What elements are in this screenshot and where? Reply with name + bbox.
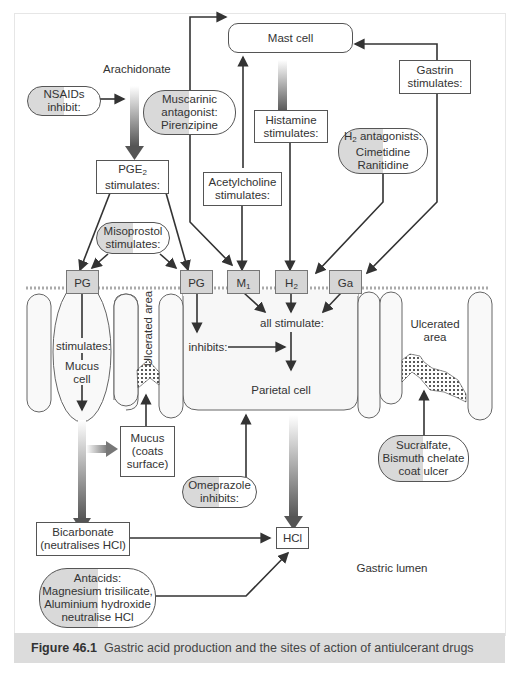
- ulcerated-area-vertical-label: Ulcerated area: [142, 289, 155, 369]
- epithelial-cell: [380, 292, 402, 404]
- h2-antagonists-node: H2 antagonists: Cimetidine Ranitidine: [338, 128, 428, 174]
- mucus-cell-label: Mucus cell: [62, 360, 102, 386]
- receptor-pg-mucus: PG: [66, 270, 99, 294]
- sucralfate-node: Sucralfate, Bismuth chelate coat ulcer: [378, 435, 469, 482]
- receptor-m1: M1: [227, 270, 260, 294]
- epithelial-cell: [114, 294, 138, 406]
- acetylcholine-node: Acetylcholine stimulates:: [203, 172, 282, 206]
- hcl-node: HCl: [276, 527, 309, 549]
- ulcerated-area-right-label: Ulcerated area: [405, 318, 465, 344]
- pge2-node: PGE2 stimulates:: [96, 160, 169, 194]
- figure-caption-text: Gastric acid production and the sites of…: [104, 641, 474, 655]
- receptor-pg-parietal: PG: [180, 270, 213, 294]
- epithelial-cell: [159, 294, 183, 418]
- figure-number: Figure 46.1: [31, 641, 97, 655]
- ulcer-right: [402, 354, 466, 402]
- nsaids-node: NSAIDs inhibit:: [27, 86, 101, 116]
- inhibits-label: inhibits:: [188, 341, 228, 354]
- gastrin-node: Gastrin stimulates:: [399, 60, 471, 94]
- mast-cell-node: Mast cell: [228, 23, 353, 53]
- receptor-h2: H2: [275, 270, 308, 294]
- parietal-cell-label: Parietal cell: [243, 384, 319, 397]
- antacids-node: Antacids: Magnesium trisilicate, Alumini…: [39, 568, 156, 628]
- gastric-lumen-label: Gastric lumen: [352, 562, 432, 575]
- all-stimulate-label: all stimulate:: [260, 317, 322, 330]
- misoprostol-node: Misoprostol stimulates:: [96, 222, 170, 254]
- mucus-cell-stimulates-label: stimulates:: [56, 340, 108, 353]
- muscarinic-antagonist-node: Muscarinic antagonist: Pirenzipine: [143, 90, 236, 135]
- receptor-gastrin: Ga: [329, 270, 362, 294]
- bicarbonate-node: Bicarbonate (neutralises HCl): [36, 522, 130, 556]
- histamine-node: Histamine stimulates:: [254, 110, 328, 143]
- arachidonate-label: Arachidonate: [103, 63, 167, 76]
- omeprazole-node: Omeprazole inhibits:: [182, 476, 257, 508]
- epithelial-cell: [27, 294, 51, 412]
- mucus-node: Mucus (coats surface): [120, 426, 175, 477]
- epithelial-cell: [358, 292, 380, 418]
- figure-caption: Figure 46.1 Gastric acid production and …: [31, 641, 474, 655]
- epithelial-cell: [468, 292, 492, 420]
